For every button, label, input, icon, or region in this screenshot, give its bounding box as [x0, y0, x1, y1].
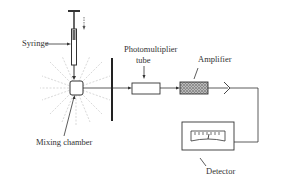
syringe: [68, 11, 80, 80]
diagram-canvas: [0, 0, 282, 188]
photomultiplier-tube: [132, 83, 160, 94]
amplifier: [180, 82, 208, 94]
push-arrow-icon: [83, 17, 86, 30]
mixing-chamber-label: Mixing chamber: [36, 138, 92, 147]
syringe-pointer: [46, 43, 71, 46]
syringe-label: Syringe: [22, 39, 48, 48]
photomultiplier-label: Photomultiplier: [124, 45, 177, 54]
detector-label: Detector: [206, 167, 235, 176]
mixing-chamber-pointer: [64, 97, 74, 136]
mixing-chamber: [70, 81, 83, 95]
amplifier-label: Amplifier: [198, 55, 232, 64]
photomultiplier-label-tube: tube: [136, 56, 151, 65]
